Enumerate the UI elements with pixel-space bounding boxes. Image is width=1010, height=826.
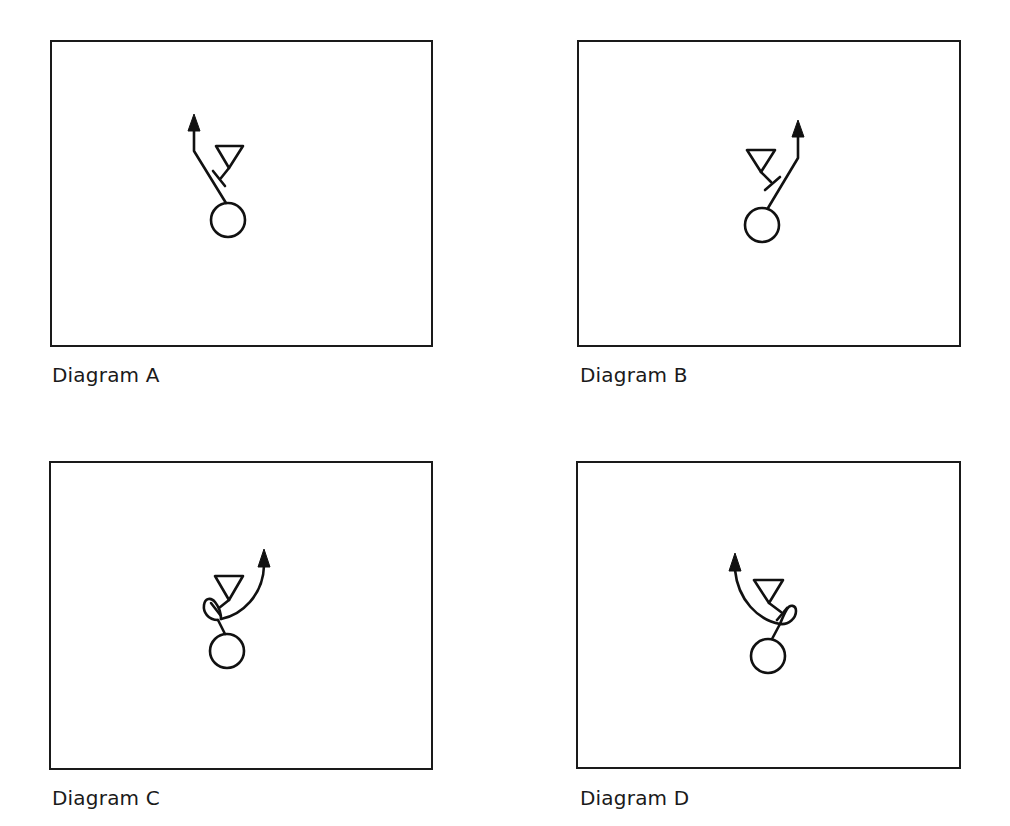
diagram-d-symbols: [729, 553, 796, 673]
route-line: [768, 136, 798, 208]
diagram-symbols: [0, 0, 1010, 826]
route-line: [772, 624, 780, 639]
route-arrowhead-icon: [188, 114, 200, 131]
block-stem: [761, 172, 771, 182]
route-arrowhead-icon: [258, 549, 270, 567]
diagram-c-symbols: [204, 549, 270, 668]
block-stem: [221, 168, 229, 178]
player-circle-icon: [751, 639, 785, 673]
player-circle-icon: [210, 634, 244, 668]
route-line: [194, 130, 226, 203]
spin-loop: [204, 599, 221, 620]
block-stem: [219, 600, 229, 608]
player-circle-icon: [211, 203, 245, 237]
block-stem: [769, 603, 781, 612]
route-arrowhead-icon: [792, 120, 804, 137]
defender-triangle-icon: [747, 150, 775, 172]
route-arrowhead-icon: [729, 553, 741, 571]
diagram-b-symbols: [745, 120, 804, 242]
defender-triangle-icon: [215, 576, 243, 600]
diagram-a-symbols: [188, 114, 245, 237]
route-curve: [221, 566, 264, 619]
player-circle-icon: [745, 208, 779, 242]
route-line: [218, 620, 225, 634]
defender-triangle-icon: [754, 580, 783, 603]
defender-triangle-icon: [216, 146, 243, 168]
